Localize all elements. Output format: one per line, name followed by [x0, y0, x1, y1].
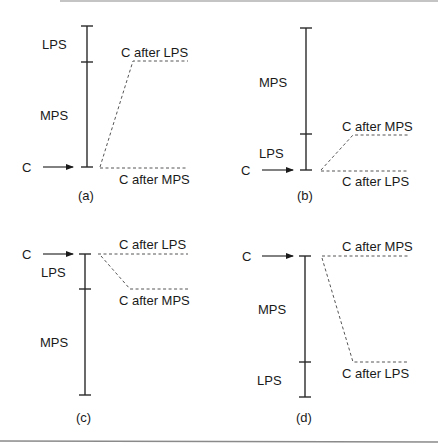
outcome-label-upper: C after MPS	[342, 239, 413, 254]
outcome-label-lower: C after MPS	[119, 293, 190, 308]
outcome-path-upper	[321, 135, 408, 170]
panel-b: MPS LPS C C after MPS C after LPS (b)	[241, 28, 413, 203]
segment-label-mps: MPS	[258, 302, 287, 317]
segment-label-lps: LPS	[259, 146, 284, 161]
bottom-rule	[0, 441, 438, 442]
panel-c: LPS MPS C C after LPS C after MPS (c)	[22, 237, 190, 425]
pointer-label-c: C	[22, 247, 31, 262]
panel-caption: (b)	[297, 188, 313, 203]
pointer-label-c: C	[22, 160, 31, 175]
segment-label-mps: MPS	[40, 108, 69, 123]
outcome-path-lower	[101, 256, 188, 289]
panel-d: MPS LPS C C after MPS C after LPS (d)	[242, 239, 413, 425]
segment-label-lps: LPS	[257, 373, 282, 388]
outcome-label-lower: C after LPS	[342, 174, 410, 189]
outcome-path-upper	[100, 61, 188, 167]
segment-label-lps: LPS	[42, 37, 67, 52]
outcome-label-lower: C after LPS	[342, 366, 410, 381]
outcome-label-lower: C after MPS	[119, 172, 190, 187]
segment-label-lps: LPS	[41, 265, 66, 280]
panel-a: LPS MPS C C after LPS C after MPS (a)	[22, 26, 190, 203]
pointer-label-c: C	[241, 163, 250, 178]
pointer-label-c: C	[242, 249, 251, 264]
outcome-path-lower	[322, 258, 408, 362]
outcome-label-upper: C after LPS	[119, 237, 187, 252]
segment-label-mps: MPS	[40, 335, 69, 350]
segment-label-mps: MPS	[259, 75, 288, 90]
interval-diagram-figure: LPS MPS C C after LPS C after MPS (a) MP…	[0, 0, 438, 448]
panel-caption: (d)	[296, 410, 312, 425]
panel-caption: (c)	[76, 410, 91, 425]
outcome-label-upper: C after MPS	[342, 119, 413, 134]
panel-caption: (a)	[78, 188, 94, 203]
outcome-label-upper: C after LPS	[121, 45, 189, 60]
